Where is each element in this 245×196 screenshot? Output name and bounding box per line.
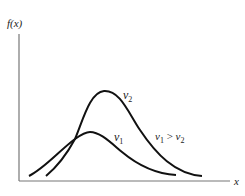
v1-label: v1 bbox=[114, 131, 123, 146]
x-axis-label: x bbox=[234, 176, 239, 187]
cmp-op: > bbox=[164, 130, 176, 142]
comparison-annotation: v1 > v2 bbox=[155, 131, 185, 145]
curve-v1 bbox=[29, 132, 176, 176]
v2-sub: 2 bbox=[128, 95, 132, 104]
v2-label: v2 bbox=[123, 89, 132, 104]
y-axis-label: f(x) bbox=[7, 18, 22, 29]
cmp-b-sub: 2 bbox=[181, 136, 185, 145]
v1-sub: 1 bbox=[119, 137, 123, 146]
